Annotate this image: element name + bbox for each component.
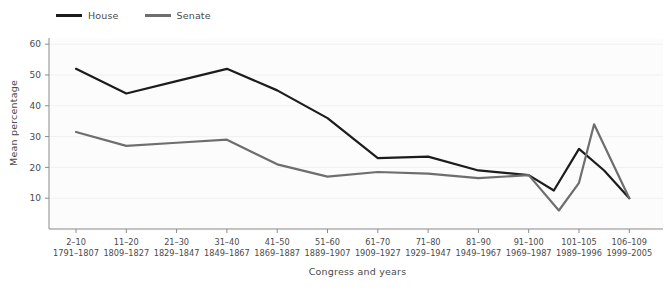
y-tick-label: 60	[30, 39, 42, 49]
x-tick-label-years: 1989–1996	[556, 248, 602, 258]
y-tick-label: 30	[30, 132, 42, 142]
x-tick-label-congress: 11–20	[114, 237, 139, 247]
x-tick-label-congress: 106–109	[612, 237, 647, 247]
x-tick-label-congress: 41–50	[265, 237, 290, 247]
x-tick-label-congress: 21–30	[164, 237, 189, 247]
x-tick-label-years: 1869–1887	[254, 248, 300, 258]
y-axis-ticks: 102030405060	[30, 39, 49, 203]
legend-label-senate: Senate	[177, 10, 211, 21]
x-tick-label-years: 1809–1827	[103, 248, 149, 258]
chart-legend: House Senate	[56, 8, 211, 22]
chart-figure: House Senate Mean percentage Congress an…	[0, 0, 671, 290]
x-tick-label-years: 1909–1927	[355, 248, 401, 258]
x-tick-label-years: 1949–1967	[456, 248, 502, 258]
x-tick-label-years: 1889–1907	[305, 248, 351, 258]
x-tick-label-years: 1829–1847	[154, 248, 200, 258]
legend-entry-house: House	[56, 10, 119, 21]
grid-lines	[49, 38, 663, 229]
y-tick-label: 40	[30, 101, 42, 111]
y-tick-label: 20	[30, 163, 42, 173]
x-tick-label-congress: 101–105	[561, 237, 596, 247]
x-tick-label-years: 1791–1807	[53, 248, 99, 258]
x-tick-label-congress: 61–70	[365, 237, 390, 247]
x-tick-label-years: 1929–1947	[405, 248, 451, 258]
plot-area: 102030405060 2–101791–180711–201809–1827…	[0, 0, 671, 290]
x-tick-label-congress: 71–80	[416, 237, 441, 247]
y-tick-label: 10	[30, 193, 42, 203]
x-tick-label-congress: 51–60	[315, 237, 340, 247]
x-tick-label-congress: 31–40	[214, 237, 239, 247]
x-tick-label-congress: 2–10	[66, 237, 86, 247]
x-tick-label-years: 1999–2005	[606, 248, 652, 258]
y-tick-label: 50	[30, 70, 42, 80]
legend-swatch-house	[56, 14, 82, 17]
legend-swatch-senate	[145, 14, 171, 17]
x-axis-title-text: Congress and years	[309, 266, 407, 277]
x-tick-label-congress: 91–100	[514, 237, 544, 247]
x-axis-ticks: 2–101791–180711–201809–182721–301829–184…	[53, 229, 652, 258]
legend-label-house: House	[88, 10, 119, 21]
legend-entry-senate: Senate	[145, 10, 211, 21]
x-tick-label-congress: 81–90	[466, 237, 491, 247]
x-tick-label-years: 1969–1987	[506, 248, 552, 258]
x-axis-title: Congress and years	[0, 266, 671, 277]
x-tick-label-years: 1849–1867	[204, 248, 250, 258]
y-axis-title: Mean percentage	[8, 28, 22, 218]
